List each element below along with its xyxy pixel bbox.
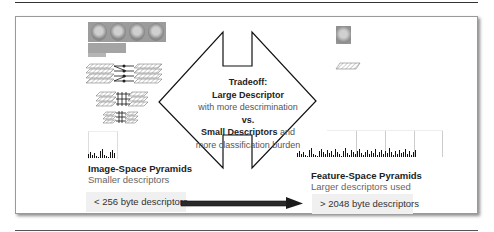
histogram-bar xyxy=(309,150,310,157)
histogram-bar xyxy=(399,150,400,157)
histogram-bar xyxy=(303,152,304,157)
histogram-bar xyxy=(345,148,346,157)
histogram-bar xyxy=(349,155,350,157)
histogram-bar xyxy=(401,153,402,157)
histogram-bar xyxy=(339,154,340,157)
histogram-bar xyxy=(321,149,322,157)
vs-label: vs. xyxy=(242,115,255,125)
discrimination-text: with more descrimination xyxy=(180,101,316,114)
histogram-bar xyxy=(335,149,336,157)
histogram-bar xyxy=(415,150,416,157)
histogram-bar xyxy=(409,151,410,157)
histogram-bar xyxy=(323,152,324,157)
tradeoff-title: Tradeoff: xyxy=(229,77,268,87)
histogram-bar xyxy=(337,152,338,157)
histogram-bar xyxy=(395,151,396,157)
histogram-bar xyxy=(413,152,414,157)
histogram-bar xyxy=(373,153,374,157)
right-subtitle: Larger descriptors used xyxy=(311,181,411,192)
histogram-bar xyxy=(331,151,332,157)
histogram-bar xyxy=(371,151,372,157)
histogram-bar xyxy=(307,156,308,157)
right-descriptor-histogram xyxy=(297,147,416,157)
histogram-bar xyxy=(361,153,362,157)
histogram-bar xyxy=(405,149,406,157)
histogram-bar xyxy=(369,154,370,157)
histogram-bar xyxy=(391,152,392,157)
right-arrow-icon xyxy=(180,196,305,210)
right-size-label: > 2048 byte descriptors xyxy=(312,194,413,214)
classification-burden-text: more classification burden xyxy=(180,139,316,152)
histogram-bar xyxy=(297,153,298,157)
histogram-bar xyxy=(301,154,302,157)
histogram-bar xyxy=(375,149,376,157)
histogram-bar xyxy=(363,155,364,157)
histogram-bar xyxy=(353,152,354,157)
histogram-bar xyxy=(325,154,326,157)
histogram-bar xyxy=(359,149,360,157)
feature-grid-glyph xyxy=(335,62,361,70)
histogram-bar xyxy=(389,148,390,157)
histogram-bar xyxy=(377,155,378,157)
histogram-bar xyxy=(367,150,368,157)
histogram-bar xyxy=(403,152,404,157)
histogram-divider xyxy=(442,131,443,157)
histogram-bar xyxy=(329,153,330,157)
right-title: Feature-Space Pyramids xyxy=(311,170,422,181)
histogram-bar xyxy=(383,154,384,157)
histogram-bar xyxy=(313,154,314,157)
face-thumbnail-single xyxy=(336,26,351,44)
histogram-bar xyxy=(393,155,394,157)
histogram-bar xyxy=(317,156,318,157)
histogram-bar xyxy=(343,151,344,157)
histogram-bar xyxy=(311,148,312,157)
histogram-bar xyxy=(381,150,382,157)
histogram-bar xyxy=(347,153,348,157)
histogram-bar xyxy=(379,152,380,157)
histogram-bar xyxy=(355,154,356,157)
histogram-bar xyxy=(315,155,316,157)
histogram-bar xyxy=(411,155,412,157)
histogram-bar xyxy=(327,150,328,157)
small-descriptors-label: Small Descriptors xyxy=(201,127,278,137)
histogram-bar xyxy=(299,151,300,157)
histogram-bar xyxy=(341,156,342,157)
histogram-bar xyxy=(357,151,358,157)
histogram-bar xyxy=(351,150,352,157)
histogram-bar xyxy=(387,153,388,157)
bottom-rule xyxy=(15,230,478,231)
histogram-bar xyxy=(407,154,408,157)
tradeoff-text: Tradeoff: Large Descriptor with more des… xyxy=(180,76,316,151)
histogram-bar xyxy=(333,155,334,157)
histogram-bar xyxy=(365,152,366,157)
and-text: and xyxy=(278,127,296,137)
histogram-bar xyxy=(319,151,320,157)
histogram-bar xyxy=(305,155,306,157)
histogram-bar xyxy=(397,154,398,157)
histogram-bar xyxy=(385,151,386,157)
large-descriptor-label: Large Descriptor xyxy=(212,90,284,100)
